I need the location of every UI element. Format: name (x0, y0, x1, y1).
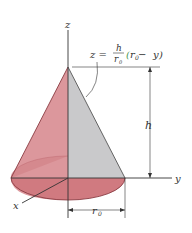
svg-text:−: − (138, 49, 146, 60)
height-label: h (145, 119, 152, 132)
x-axis-label: x (13, 200, 19, 211)
cone-equation: z = h r 0 ( r 0 − y ) (89, 43, 163, 65)
svg-text:): ) (158, 49, 163, 60)
z-axis-label: z (64, 19, 71, 30)
svg-text:0: 0 (119, 59, 123, 65)
radius-subscript: 0 (98, 210, 102, 217)
y-axis-label: y (174, 173, 181, 184)
svg-text:z =: z = (89, 49, 107, 60)
cone-diagram: z y x h r 0 z = h r 0 ( r 0 − y ) (0, 0, 192, 233)
svg-text:h: h (116, 43, 122, 53)
svg-text:y: y (152, 49, 159, 60)
